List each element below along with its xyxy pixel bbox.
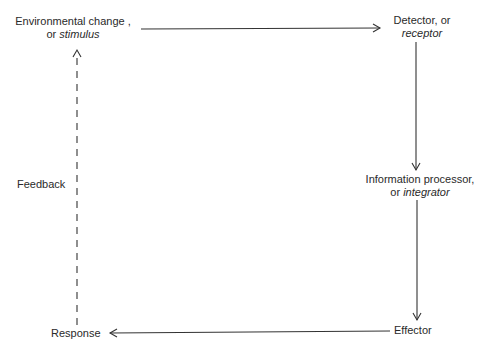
stimulus-line2: or stimulus bbox=[4, 28, 142, 41]
arrow-effector-to-response bbox=[110, 329, 390, 337]
arrow-integrator-to-effector bbox=[413, 200, 421, 320]
node-receptor: Detector, or receptor bbox=[382, 14, 462, 40]
arrow-feedback-dashed bbox=[73, 50, 81, 325]
arrow-receptor-to-integrator bbox=[412, 42, 420, 170]
node-integrator: Information processor, or integrator bbox=[350, 173, 490, 199]
node-response: Response bbox=[51, 327, 107, 340]
feedback-label: Feedback bbox=[17, 178, 67, 191]
receptor-line1: Detector, or bbox=[382, 14, 462, 27]
arrow-stimulus-to-receptor bbox=[141, 24, 380, 32]
receptor-line2: receptor bbox=[382, 27, 462, 40]
integrator-line1: Information processor, bbox=[350, 173, 490, 186]
node-effector: Effector bbox=[394, 324, 444, 337]
stimulus-line1: Environmental change , bbox=[4, 15, 142, 28]
node-stimulus: Environmental change , or stimulus bbox=[4, 15, 142, 41]
integrator-line2: or integrator bbox=[350, 186, 490, 199]
